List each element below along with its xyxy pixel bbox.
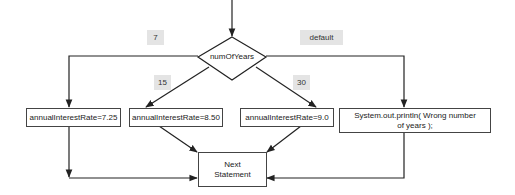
branch-label-30: 30: [293, 75, 310, 90]
action-label: annualInterestRate=7.25: [30, 113, 118, 123]
action-box-rate-15: annualInterestRate=8.50: [129, 108, 223, 127]
action-label: annualInterestRate=8.50: [132, 113, 220, 123]
decision-label: numOfYears: [198, 52, 266, 61]
action-label-line2: of years );: [397, 121, 433, 131]
branch-label-15: 15: [154, 75, 171, 90]
action-label-line1: System.out.println( Wrong number: [354, 111, 476, 121]
branch-label-default: default: [300, 30, 343, 45]
branch-label-7: 7: [147, 30, 164, 45]
action-box-rate-30: annualInterestRate=9.0: [240, 108, 334, 127]
next-label-line2: Statement: [214, 170, 250, 180]
next-statement-box: Next Statement: [198, 152, 267, 187]
action-box-error: System.out.println( Wrong number of year…: [339, 108, 491, 133]
action-label: annualInterestRate=9.0: [245, 113, 328, 123]
next-label-line1: Next: [224, 160, 240, 170]
action-box-rate-7: annualInterestRate=7.25: [26, 108, 121, 127]
